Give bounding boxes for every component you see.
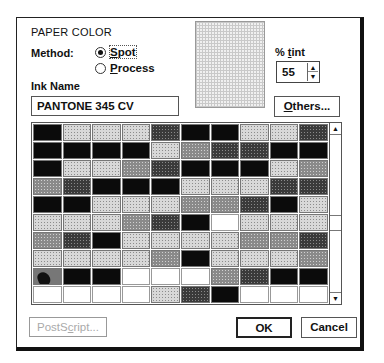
color-swatch[interactable] [270, 142, 299, 159]
color-swatch[interactable] [240, 142, 269, 159]
color-swatch[interactable] [181, 142, 210, 159]
color-swatch[interactable] [92, 178, 121, 195]
color-swatch[interactable] [181, 124, 210, 141]
color-swatch[interactable] [33, 232, 62, 249]
color-swatch[interactable] [270, 232, 299, 249]
color-swatch[interactable] [181, 196, 210, 213]
color-swatch[interactable] [299, 124, 328, 141]
color-swatch[interactable] [181, 250, 210, 267]
color-swatch[interactable] [92, 214, 121, 231]
scroll-thumb[interactable] [330, 215, 341, 231]
color-swatch[interactable] [270, 160, 299, 177]
color-swatch[interactable] [299, 142, 328, 159]
color-swatch[interactable] [151, 178, 180, 195]
color-swatch[interactable] [181, 286, 210, 303]
color-swatch[interactable] [122, 214, 151, 231]
color-swatch[interactable] [92, 268, 121, 285]
color-swatch[interactable] [211, 142, 240, 159]
color-swatch[interactable] [33, 196, 62, 213]
color-swatch[interactable] [211, 232, 240, 249]
color-swatch[interactable] [181, 268, 210, 285]
color-swatch[interactable] [151, 124, 180, 141]
tint-value-input[interactable]: 55 [282, 66, 295, 78]
color-swatch[interactable] [33, 142, 62, 159]
color-swatch[interactable] [151, 268, 180, 285]
color-swatch[interactable] [151, 214, 180, 231]
color-swatch[interactable] [33, 178, 62, 195]
color-swatch[interactable] [63, 214, 92, 231]
color-swatch[interactable] [122, 286, 151, 303]
color-swatch[interactable] [211, 268, 240, 285]
color-swatch[interactable] [211, 178, 240, 195]
color-swatch[interactable] [299, 232, 328, 249]
color-swatch[interactable] [92, 250, 121, 267]
color-swatch[interactable] [122, 250, 151, 267]
color-swatch[interactable] [122, 160, 151, 177]
color-swatch[interactable] [211, 286, 240, 303]
color-swatch[interactable] [181, 160, 210, 177]
color-swatch[interactable] [92, 142, 121, 159]
radio-process[interactable]: Process [95, 62, 155, 74]
color-swatch[interactable] [33, 250, 62, 267]
ok-button[interactable]: OK [236, 317, 292, 338]
color-swatch[interactable] [240, 232, 269, 249]
color-swatch[interactable] [240, 268, 269, 285]
color-swatch[interactable] [299, 214, 328, 231]
color-swatch[interactable] [122, 232, 151, 249]
color-swatch[interactable] [270, 286, 299, 303]
color-swatch[interactable] [270, 250, 299, 267]
color-swatch[interactable] [270, 268, 299, 285]
cancel-button[interactable]: Cancel [301, 317, 357, 338]
color-swatch[interactable] [181, 178, 210, 195]
color-swatch[interactable] [33, 268, 62, 285]
color-swatch[interactable] [151, 250, 180, 267]
color-swatch[interactable] [181, 214, 210, 231]
color-swatch[interactable] [240, 214, 269, 231]
color-swatch[interactable] [63, 160, 92, 177]
color-swatch[interactable] [92, 124, 121, 141]
color-swatch[interactable] [240, 178, 269, 195]
radio-spot[interactable]: Spot [95, 46, 136, 58]
color-swatch[interactable] [151, 286, 180, 303]
color-swatch[interactable] [33, 160, 62, 177]
color-swatch[interactable] [299, 268, 328, 285]
color-swatch[interactable] [151, 196, 180, 213]
postscript-button[interactable]: PostScript... [29, 317, 107, 337]
color-swatch[interactable] [240, 286, 269, 303]
color-swatch[interactable] [151, 160, 180, 177]
color-swatch[interactable] [92, 196, 121, 213]
color-swatch[interactable] [240, 196, 269, 213]
spin-up-icon[interactable]: ▲ [308, 63, 318, 72]
color-swatch[interactable] [299, 160, 328, 177]
color-swatch[interactable] [270, 214, 299, 231]
color-swatch[interactable] [63, 178, 92, 195]
color-swatch[interactable] [299, 196, 328, 213]
color-swatch[interactable] [63, 124, 92, 141]
ink-name-field[interactable]: PANTONE 345 CV [31, 96, 179, 116]
color-swatch[interactable] [211, 124, 240, 141]
color-swatch[interactable] [122, 178, 151, 195]
color-swatch[interactable] [63, 268, 92, 285]
color-swatch[interactable] [299, 178, 328, 195]
color-swatch[interactable] [63, 232, 92, 249]
color-swatch[interactable] [92, 286, 121, 303]
scroll-down-icon[interactable]: ▼ [330, 292, 341, 304]
color-swatch[interactable] [92, 160, 121, 177]
color-swatch[interactable] [122, 124, 151, 141]
others-button[interactable]: Others... [274, 96, 340, 117]
color-swatch[interactable] [240, 124, 269, 141]
color-swatch[interactable] [122, 196, 151, 213]
color-swatch[interactable] [122, 268, 151, 285]
spin-down-icon[interactable]: ▼ [308, 72, 318, 81]
color-swatch[interactable] [211, 214, 240, 231]
swatch-scrollbar[interactable]: ▲ ▼ [330, 122, 342, 305]
color-swatch[interactable] [33, 286, 62, 303]
scroll-up-icon[interactable]: ▲ [330, 123, 341, 135]
color-swatch[interactable] [63, 142, 92, 159]
color-swatch[interactable] [151, 142, 180, 159]
color-swatch[interactable] [122, 142, 151, 159]
color-swatch[interactable] [63, 250, 92, 267]
color-swatch[interactable] [151, 232, 180, 249]
color-swatch[interactable] [270, 178, 299, 195]
color-swatch[interactable] [270, 196, 299, 213]
